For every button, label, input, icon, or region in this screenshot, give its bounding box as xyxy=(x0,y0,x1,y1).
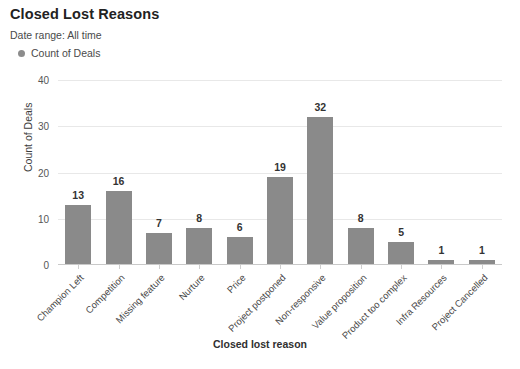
bar-value-label: 8 xyxy=(196,212,202,224)
x-axis-tick-mark xyxy=(240,265,241,269)
bar[interactable] xyxy=(186,228,212,265)
x-axis-title: Closed lost reason xyxy=(0,338,520,350)
bar-value-label: 1 xyxy=(479,244,485,256)
bar-group[interactable]: 1Infra Resources xyxy=(423,80,459,265)
bar[interactable] xyxy=(65,205,91,265)
page-title: Closed Lost Reasons xyxy=(10,6,159,22)
bar[interactable] xyxy=(388,242,414,265)
bar-group[interactable]: 13Champion Left xyxy=(60,80,96,265)
x-axis-category-label: Price xyxy=(224,272,247,295)
bar-value-label: 19 xyxy=(274,161,286,173)
x-axis-tick-mark xyxy=(441,265,442,269)
plot-area: 010203040 13Champion Left16Competition7M… xyxy=(58,80,502,265)
y-axis-title: Count of Deals xyxy=(22,103,34,172)
legend-item-label: Count of Deals xyxy=(31,47,100,59)
x-axis-tick-mark xyxy=(199,265,200,269)
x-axis-tick-mark xyxy=(280,265,281,269)
bar[interactable] xyxy=(307,117,333,265)
bar-value-label: 32 xyxy=(315,101,327,113)
x-axis-tick-mark xyxy=(320,265,321,269)
bar[interactable] xyxy=(267,177,293,265)
bar-group[interactable]: 7Missing feature xyxy=(141,80,177,265)
bar[interactable] xyxy=(348,228,374,265)
x-axis-tick-mark xyxy=(361,265,362,269)
date-range-label: Date range: All time xyxy=(10,29,102,41)
y-axis-tick-label: 20 xyxy=(38,167,49,178)
x-axis-tick-mark xyxy=(401,265,402,269)
x-axis-tick-mark xyxy=(78,265,79,269)
bar[interactable] xyxy=(227,237,253,265)
y-axis-tick-label: 40 xyxy=(38,75,49,86)
bar-value-label: 8 xyxy=(358,212,364,224)
x-axis-tick-mark xyxy=(482,265,483,269)
x-axis-line xyxy=(58,264,502,265)
bar[interactable] xyxy=(106,191,132,265)
x-axis-tick-mark xyxy=(119,265,120,269)
bar[interactable] xyxy=(146,233,172,265)
y-axis-tick-label: 30 xyxy=(38,121,49,132)
bar-group[interactable]: 19Project postponed xyxy=(262,80,298,265)
x-axis-category-label: Nurture xyxy=(177,272,207,302)
x-axis-category-label: Champion Left xyxy=(34,272,85,323)
bar-value-label: 6 xyxy=(237,221,243,233)
chart-card: Closed Lost Reasons Date range: All time… xyxy=(0,0,520,369)
bar-group[interactable]: 16Competition xyxy=(101,80,137,265)
x-axis-category-label: Competition xyxy=(83,272,127,316)
bar-value-label: 1 xyxy=(439,244,445,256)
bar-group[interactable]: 1Project Cancelled xyxy=(464,80,500,265)
bar-group[interactable]: 32Non-responsive xyxy=(302,80,338,265)
bar-group[interactable]: 8Value proposition xyxy=(343,80,379,265)
y-axis-tick-label: 0 xyxy=(43,260,49,271)
bar-group[interactable]: 6Price xyxy=(222,80,258,265)
bar-value-label: 13 xyxy=(72,189,84,201)
bar-group[interactable]: 8Nurture xyxy=(181,80,217,265)
x-axis-tick-mark xyxy=(159,265,160,269)
y-axis-tick-label: 10 xyxy=(38,213,49,224)
bar-value-label: 5 xyxy=(398,226,404,238)
bar-group[interactable]: 5Product too complex xyxy=(383,80,419,265)
legend-marker-icon xyxy=(18,50,25,57)
bar-value-label: 7 xyxy=(156,217,162,229)
bar-value-label: 16 xyxy=(113,175,125,187)
chart-legend: Count of Deals xyxy=(18,47,100,59)
